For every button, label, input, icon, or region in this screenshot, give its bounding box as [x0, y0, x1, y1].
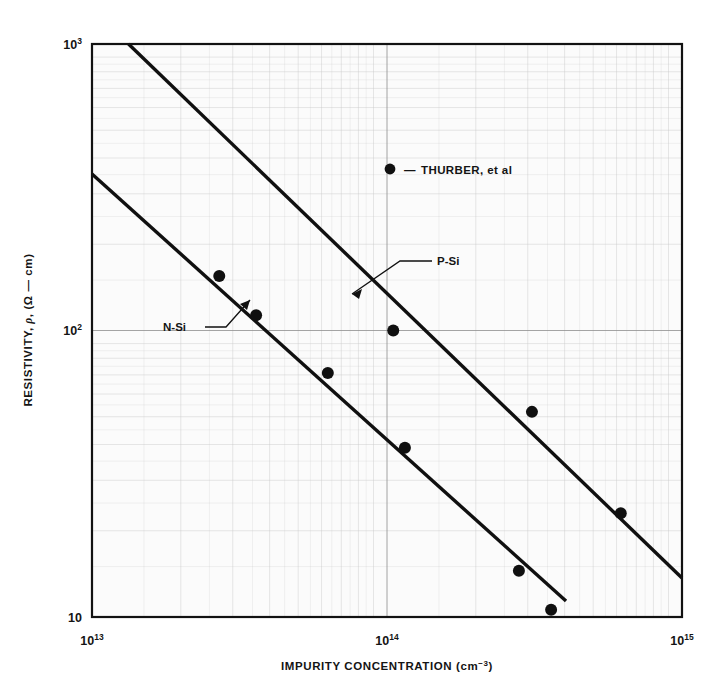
data-point — [615, 507, 627, 519]
y-axis-title: RESISTIVITY, ρ, (Ω — cm) — [22, 253, 35, 406]
data-point — [399, 442, 411, 454]
data-point — [387, 325, 399, 337]
legend-entry-label: THURBER, et al — [421, 164, 512, 176]
figure-container: P-Si N-Si — THURBER, et al 103 102 10 10… — [0, 0, 726, 690]
data-point — [526, 406, 538, 418]
legend-dash: — — [404, 164, 416, 176]
chart-svg: P-Si N-Si — THURBER, et al 103 102 10 10… — [0, 0, 726, 690]
data-point — [213, 270, 225, 282]
data-point — [545, 604, 557, 616]
y-tick-10: 10 — [68, 611, 82, 625]
data-point — [322, 367, 334, 379]
data-point — [513, 565, 525, 577]
data-point — [250, 309, 262, 321]
x-axis-title: IMPURITY CONCENTRATION (cm−3) — [281, 659, 493, 672]
n-si-label: N-Si — [163, 321, 186, 333]
legend: — THURBER, et al — [385, 164, 513, 176]
p-si-label: P-Si — [437, 255, 459, 267]
legend-marker-icon — [385, 164, 396, 175]
